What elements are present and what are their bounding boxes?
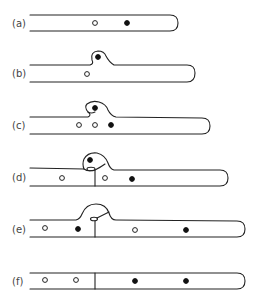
filled-dot: [88, 158, 93, 163]
panel-label-d: (d): [12, 172, 26, 183]
open-dot: [43, 278, 48, 283]
panel-label-e: (e): [12, 224, 26, 235]
panel-e: (e): [12, 204, 245, 237]
panel-label-a: (a): [12, 18, 26, 29]
panel-d: (d): [12, 153, 228, 186]
panel-label-c: (c): [12, 120, 25, 131]
filled-dot: [130, 177, 135, 182]
filled-dot: [109, 123, 114, 128]
filled-dot: [184, 279, 189, 284]
open-dot: [85, 72, 90, 77]
tube-outline-d: [30, 153, 228, 186]
filled-dot: [93, 106, 98, 111]
small-loop: [91, 217, 98, 221]
open-dot: [103, 176, 108, 181]
open-dot: [133, 228, 138, 233]
panel-c: (c): [12, 101, 210, 134]
filled-dot: [133, 279, 138, 284]
tube-outline-a: [30, 15, 178, 31]
open-dot: [93, 21, 98, 26]
panel-a: (a): [12, 15, 178, 31]
open-dot: [93, 123, 98, 128]
filled-dot: [125, 21, 130, 26]
open-dot: [77, 123, 82, 128]
panel-label-f: (f): [12, 276, 23, 287]
open-dot: [60, 176, 65, 181]
filled-dot: [96, 55, 101, 60]
open-dot: [74, 278, 79, 283]
tube-outline-b: [30, 51, 195, 82]
panel-label-b: (b): [12, 68, 26, 79]
tube-outline-e: [30, 204, 245, 237]
panel-f: (f): [12, 273, 245, 289]
open-dot: [43, 226, 48, 231]
filled-dot: [76, 227, 81, 232]
tube-outline-c: [30, 101, 210, 134]
diagram-canvas: (a) (b) (c) (d) (e): [0, 0, 260, 299]
panel-b: (b): [12, 51, 195, 82]
filled-dot: [184, 228, 189, 233]
